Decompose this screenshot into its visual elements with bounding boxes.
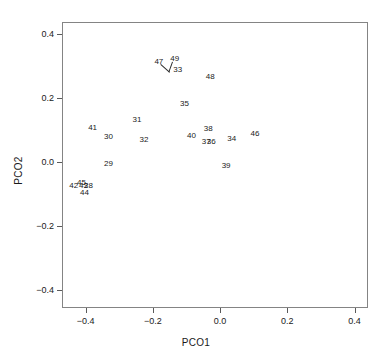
data-point-label: 36: [207, 138, 216, 146]
data-point-label: 33: [173, 66, 182, 74]
data-point-label: 34: [227, 135, 236, 143]
data-point-label: 29: [104, 160, 113, 168]
data-point-label: 39: [222, 162, 231, 170]
x-tick: [287, 308, 288, 313]
x-tick-label: 0.0: [214, 317, 227, 326]
x-axis-title: PCO1: [0, 337, 392, 348]
data-point-label: 30: [104, 133, 113, 141]
x-tick: [86, 308, 87, 313]
y-tick-label: −0.4: [36, 286, 54, 295]
data-point-label: 38: [204, 125, 213, 133]
y-tick-label: 0.2: [41, 93, 54, 102]
y-tick-label: −0.2: [36, 222, 54, 231]
x-tick-label: 0.4: [348, 317, 361, 326]
x-tick-label: 0.2: [281, 317, 294, 326]
y-tick: [57, 98, 62, 99]
data-point-label: 44: [80, 189, 89, 197]
y-axis-title: PCO2: [13, 131, 24, 211]
data-point-label: 48: [206, 73, 215, 81]
x-tick: [355, 308, 356, 313]
data-point-label: 41: [88, 124, 97, 132]
y-tick-label: 0.0: [41, 158, 54, 167]
data-point-label: 32: [140, 136, 149, 144]
x-tick-label: −0.4: [77, 317, 95, 326]
data-point-label: 46: [251, 130, 260, 138]
y-tick-label: 0.4: [41, 29, 54, 38]
y-tick: [57, 290, 62, 291]
data-point-label: 31: [133, 116, 142, 124]
data-point-label: 35: [180, 100, 189, 108]
y-tick: [57, 162, 62, 163]
x-tick: [220, 308, 221, 313]
data-point-label: 40: [187, 132, 196, 140]
scatter-plot: 4749334835314130324038373634462939424543…: [0, 0, 392, 360]
y-tick: [57, 34, 62, 35]
y-tick: [57, 226, 62, 227]
x-tick: [153, 308, 154, 313]
x-tick-label: −0.2: [144, 317, 162, 326]
